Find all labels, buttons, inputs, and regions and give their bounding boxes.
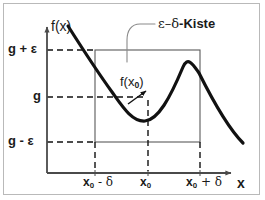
y-axis-label: f(x) bbox=[51, 19, 71, 33]
y-tick-label-g-plus-epsilon: g + ε bbox=[8, 42, 37, 55]
x0-subscript: 0 bbox=[147, 181, 151, 190]
epsilon-delta-box-callout-label: ε–δ-Kiste bbox=[158, 17, 215, 30]
f-of-x0-annotation: f(x0) bbox=[120, 75, 144, 89]
callout-word-text: -Kiste bbox=[179, 16, 215, 31]
y-tick-label-g-minus-epsilon: g - ε bbox=[8, 134, 34, 147]
callout-greek-text: ε–δ bbox=[158, 16, 179, 31]
f-of-x0-prefix: f(x bbox=[120, 74, 134, 89]
f-of-x0-suffix: ) bbox=[139, 74, 143, 89]
x-tick-label-x0-minus-delta: x0 - δ bbox=[83, 176, 113, 190]
x0-prefix: x bbox=[140, 175, 147, 189]
callout-leader-line bbox=[127, 24, 155, 62]
y-tick-label-g-text: g bbox=[33, 88, 41, 103]
x-tick-label-x0: x0 bbox=[140, 176, 151, 190]
x0-minus-delta-suffix: - δ bbox=[94, 175, 113, 189]
x0-minus-delta-prefix: x bbox=[83, 175, 90, 189]
y-tick-label-g-plus-epsilon-text: g + ε bbox=[8, 41, 37, 56]
y-tick-label-g-minus-epsilon-text: g - ε bbox=[8, 133, 34, 148]
figure-root: f(x) x g + ε g g - ε f(x0) ε–δ-Kiste x0 … bbox=[0, 0, 265, 200]
function-curve bbox=[68, 26, 243, 143]
x-tick-label-x0-plus-delta: x0 + δ bbox=[186, 176, 222, 190]
y-tick-label-g: g bbox=[33, 89, 41, 102]
x0-plus-delta-prefix: x bbox=[186, 175, 193, 189]
x-axis-label: x bbox=[237, 176, 245, 190]
x0-plus-delta-suffix: + δ bbox=[197, 175, 222, 189]
